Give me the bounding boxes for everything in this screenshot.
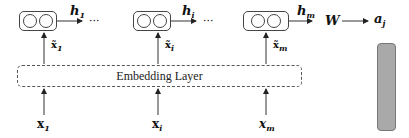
attention-output-label: aj xyxy=(374,12,385,25)
neuron-icon xyxy=(23,14,37,28)
embedded-input-label-1: x̃1 xyxy=(51,40,63,50)
ellipsis-2: ··· xyxy=(203,15,214,28)
hidden-state-label-i: hi xyxy=(182,4,195,17)
rnn-cell-1 xyxy=(19,11,57,31)
input-label-m: xm xyxy=(259,118,275,130)
weight-label: W xyxy=(325,14,340,27)
rnn-cell-m xyxy=(243,11,289,31)
embedding-layer: Embedding Layer xyxy=(17,65,302,87)
hidden-state-label-1: h1 xyxy=(70,4,85,17)
input-label-1: x1 xyxy=(37,118,50,130)
neuron-icon xyxy=(267,14,281,28)
neuron-icon xyxy=(137,14,151,28)
embedding-layer-label: Embedding Layer xyxy=(116,69,202,84)
input-label-i: xi xyxy=(152,118,162,130)
ellipsis-1: ··· xyxy=(89,15,100,28)
neuron-icon xyxy=(153,14,167,28)
embedded-input-label-m: x̃m xyxy=(273,40,287,50)
neuron-icon xyxy=(251,14,265,28)
attention-output-bar xyxy=(377,43,396,131)
embedded-input-label-i: x̃i xyxy=(165,40,174,50)
hidden-state-label-m: hm xyxy=(297,4,315,17)
rnn-cell-i xyxy=(133,11,171,31)
neuron-icon xyxy=(39,14,53,28)
